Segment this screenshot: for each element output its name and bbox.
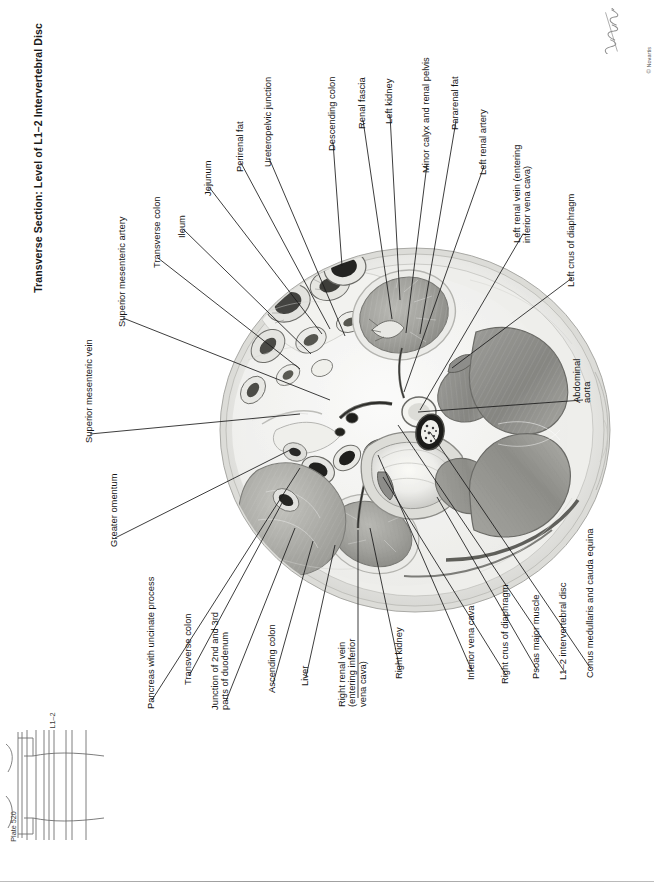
label-junction-duodenum: Junction of 2nd and 3rd parts of duodenu… [210,612,231,710]
label-transverse-colon-upper: Transverse colon [152,196,163,268]
label-left-kidney: Left kidney [384,79,395,124]
label-right-kidney: Right kidney [394,627,405,679]
label-l1-2-intervertebral-disc: L1–2 intervertebral disc [558,583,569,680]
label-greater-omentum: Greater omentum [109,474,120,547]
label-right-crus-of-diaphragm: Right crus of diaphragm [500,584,511,684]
label-inferior-vena-cava: Inferior vena cava [466,605,477,680]
label-renal-fascia: Renal fascia [357,77,368,129]
label-transverse-colon-lower: Transverse colon [183,613,194,685]
label-psoas-major-muscle: Psoas major muscle [531,595,542,679]
label-minor-calyx-renal-pelvis: Minor calyx and renal pelvis [421,57,432,173]
leader-line-junction-duodenum [226,528,295,701]
leader-line-descending-colon [333,142,342,266]
label-perirenal-fat: Perirenal fat [235,121,246,172]
label-descending-colon: Descending colon [327,76,338,151]
label-superior-mesenteric-vein: Superior mesenteric vein [84,339,95,443]
label-conus-medullaris: Conus medullaris and cauda equina [585,528,596,678]
label-ileum: Ileum [177,215,188,238]
footer-rule [0,881,654,882]
label-ascending-colon: Ascending colon [267,624,278,693]
label-superior-mesenteric-artery: Superior mesenteric artery [117,217,128,327]
label-ureteropelvic-junction: Ureteropelvic junction [263,77,274,167]
label-right-renal-vein: Right renal vein (entering inferior vena… [337,639,368,707]
label-liver: Liver [300,666,311,686]
label-left-crus-of-diaphragm: Left crus of diaphragm [566,194,577,287]
label-left-renal-artery: Left renal artery [478,109,489,175]
label-pararenal-fat: Pararenal fat [450,76,461,130]
plate-page: Transverse Section: Level of L1–2 Interv… [0,0,654,894]
label-jejunum: Jejunum [203,161,214,196]
label-left-renal-vein: Left renal vein (entering inferior vena … [512,145,533,244]
label-abdominal-aorta: Abdominal aorta [572,359,593,403]
label-pancreas-uncinate: Pancreas with uncinate process [146,577,157,709]
